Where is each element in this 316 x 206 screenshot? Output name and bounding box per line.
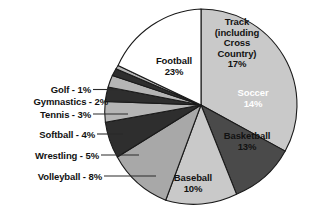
pie-chart-figure: Football 23% Track (including Cross Coun…: [0, 0, 316, 206]
slice-label-basketball: Basketball 13%: [212, 131, 282, 152]
callout-label-wrestling: Wrestling - 5%: [0, 150, 99, 161]
callout-label-softball: Softball - 4%: [0, 129, 95, 140]
callout-label-tennis: Tennis - 3%: [0, 109, 91, 120]
slice-label-track-name: Track: [203, 17, 271, 28]
slice-label-basketball-name: Basketball: [212, 131, 282, 142]
slice-label-football-value: 23%: [144, 67, 204, 78]
slice-label-track: Track (including Cross Country) 17%: [203, 17, 271, 70]
slice-label-baseball: Baseball 10%: [163, 173, 223, 194]
slice-label-baseball-name: Baseball: [163, 173, 223, 184]
slice-label-football: Football 23%: [144, 56, 204, 77]
callout-label-volleyball: Volleyball - 8%: [0, 171, 102, 182]
slice-label-soccer: Soccer 14%: [222, 88, 284, 109]
slice-label-soccer-name: Soccer: [222, 88, 284, 99]
slice-label-basketball-value: 13%: [212, 142, 282, 153]
callout-label-golf: Golf - 1%: [0, 84, 91, 95]
slice-label-baseball-value: 10%: [163, 184, 223, 195]
slice-label-football-name: Football: [144, 56, 204, 67]
slice-label-track-value: 17%: [203, 59, 271, 70]
callout-label-gymnastics: Gymnastics - 2%: [0, 96, 108, 107]
slice-label-soccer-value: 14%: [222, 99, 284, 110]
